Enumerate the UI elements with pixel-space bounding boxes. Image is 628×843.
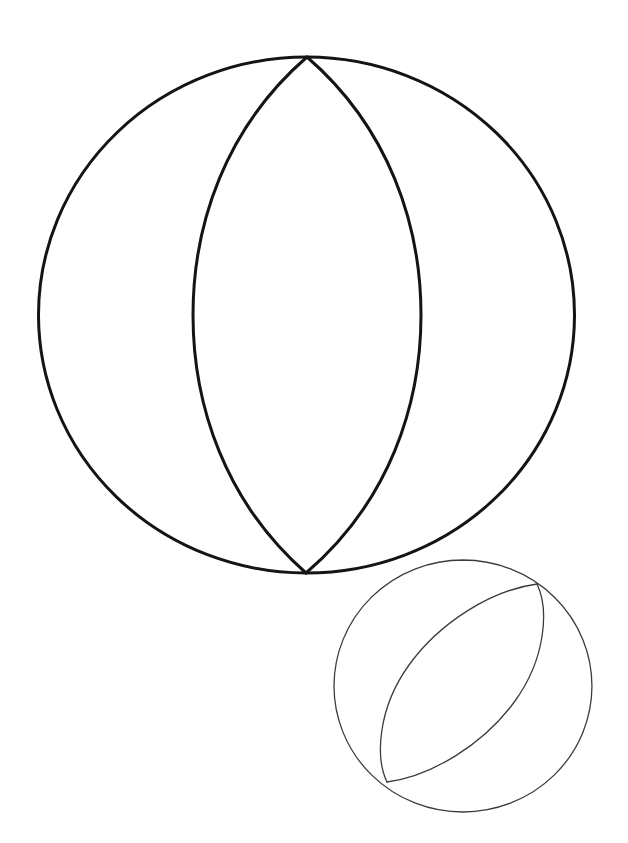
beach-ball-artwork [0,0,628,843]
page-background [0,0,628,843]
illustration-canvas [0,0,628,843]
